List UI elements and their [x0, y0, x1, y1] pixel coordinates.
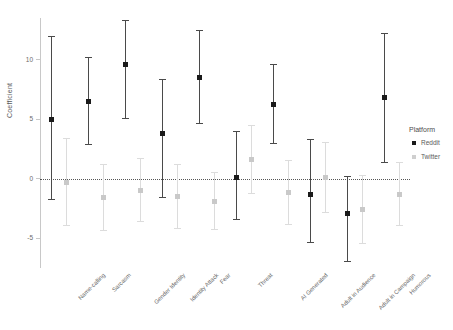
error-bar-cap-lower [137, 221, 144, 222]
error-bar-cap-upper [359, 175, 366, 176]
error-bar-cap-lower [48, 199, 55, 200]
error-bar-cap-upper [233, 131, 240, 132]
point-marker[interactable] [197, 75, 202, 80]
legend-title: Platform [409, 126, 453, 133]
point-marker[interactable] [382, 95, 387, 100]
y-axis-tick-label: -5 [27, 233, 33, 243]
point-marker[interactable] [286, 190, 291, 195]
y-axis-tick: 0 [6, 174, 40, 184]
error-bar-cap-upper [381, 33, 388, 34]
error-bar-cap-upper [211, 172, 218, 173]
y-axis-tick-label: 0 [29, 174, 33, 184]
point-marker[interactable] [49, 117, 54, 122]
point-marker[interactable] [160, 131, 165, 136]
error-bar-cap-lower [174, 228, 181, 229]
error-bar-cap-lower [359, 243, 366, 244]
point-marker[interactable] [138, 188, 143, 193]
x-axis-tick-label: AI Generated [299, 272, 328, 301]
legend-key-icon [409, 152, 418, 161]
error-bar-cap-lower [211, 229, 218, 230]
y-axis-tick: -5 [6, 233, 40, 243]
error-bar-cap-upper [344, 176, 351, 177]
legend-swatch [412, 155, 416, 159]
point-marker[interactable] [249, 157, 254, 162]
error-bar-cap-lower [196, 123, 203, 124]
error-bar-cap-lower [307, 242, 314, 243]
point-marker[interactable] [360, 207, 365, 212]
point-marker[interactable] [175, 194, 180, 199]
point-marker[interactable] [123, 62, 128, 67]
x-axis-tick-label: Adult in Audience [339, 272, 376, 309]
point-marker[interactable] [64, 180, 69, 185]
point-marker[interactable] [397, 192, 402, 197]
legend-items: RedditTwitter [409, 138, 453, 161]
x-axis-tick-label: Name-calling [77, 272, 106, 301]
zero-reference-line [40, 179, 410, 180]
legend-item-reddit[interactable]: Reddit [409, 138, 453, 147]
error-bar-cap-upper [48, 36, 55, 37]
error-bar-cap-upper [100, 164, 107, 165]
point-marker[interactable] [86, 99, 91, 104]
point-marker[interactable] [212, 199, 217, 204]
error-bar-line [347, 176, 348, 262]
point-marker[interactable] [323, 175, 328, 180]
point-marker[interactable] [101, 195, 106, 200]
y-axis-title: Coefficient [6, 83, 13, 118]
x-axis-tick-label: Sarcasm [110, 272, 131, 293]
legend-label: Reddit [421, 139, 440, 146]
error-bar-cap-lower [381, 162, 388, 163]
y-axis-tick: 5 [6, 114, 40, 124]
error-bar-cap-upper [196, 30, 203, 31]
error-bar-cap-lower [85, 144, 92, 145]
y-axis-tick-mark [36, 119, 40, 120]
error-bar-cap-lower [248, 193, 255, 194]
y-axis-tick-mark [36, 238, 40, 239]
legend-swatch [412, 141, 416, 145]
error-bar-cap-lower [122, 118, 129, 119]
error-bar-cap-upper [122, 20, 129, 21]
error-bar-cap-upper [85, 57, 92, 58]
error-bar-cap-upper [174, 164, 181, 165]
error-bar-cap-lower [100, 230, 107, 231]
point-marker[interactable] [308, 192, 313, 197]
y-axis-tick-mark [36, 59, 40, 60]
error-bar-cap-upper [396, 162, 403, 163]
point-marker[interactable] [234, 175, 239, 180]
error-bar-cap-upper [63, 138, 70, 139]
error-bar-cap-lower [159, 197, 166, 198]
point-marker[interactable] [345, 211, 350, 216]
point-marker[interactable] [271, 102, 276, 107]
error-bar-cap-lower [63, 225, 70, 226]
y-axis-line [40, 18, 41, 268]
legend: Platform RedditTwitter [409, 126, 453, 166]
coefficient-plot-figure: Coefficient 1050-5 Name-callingSarcasmGe… [0, 0, 453, 330]
legend-label: Twitter [421, 153, 440, 160]
y-axis-tick: 10 [6, 55, 40, 65]
error-bar-cap-upper [307, 139, 314, 140]
error-bar-cap-upper [248, 125, 255, 126]
error-bar-cap-lower [322, 212, 329, 213]
y-axis-tick-label: 10 [26, 55, 33, 65]
error-bar-cap-lower [233, 219, 240, 220]
error-bar-cap-upper [322, 142, 329, 143]
legend-item-twitter[interactable]: Twitter [409, 152, 453, 161]
y-axis-tick-label: 5 [29, 114, 33, 124]
x-axis-tick-label: Identity Attack [188, 272, 219, 303]
error-bar-line [162, 79, 163, 198]
error-bar-cap-upper [270, 64, 277, 65]
legend-key-icon [409, 138, 418, 147]
plot-panel: 1050-5 Name-callingSarcasmGender Identit… [40, 18, 410, 268]
error-bar-cap-upper [137, 158, 144, 159]
error-bar-cap-lower [396, 225, 403, 226]
error-bar-cap-upper [285, 160, 292, 161]
error-bar-cap-upper [159, 79, 166, 80]
error-bar-cap-lower [285, 224, 292, 225]
x-axis-tick-label: Gender Identity [153, 272, 186, 305]
error-bar-line [125, 20, 126, 119]
error-bar-cap-lower [270, 143, 277, 144]
x-axis-tick-label: Fear [218, 272, 231, 285]
error-bar-cap-lower [344, 261, 351, 262]
x-axis-tick-label: Threat [257, 272, 274, 289]
